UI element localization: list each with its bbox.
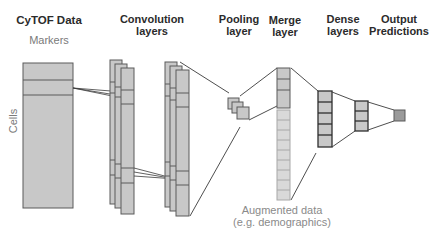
label-convolution-line1: Convolution — [112, 13, 192, 25]
label-dense-layers: Dense layers — [318, 13, 368, 37]
label-augmented-data: Augmented data (e.g. demographics) — [222, 204, 342, 228]
dense-layer-2 — [355, 101, 368, 131]
merge-layer — [277, 68, 290, 108]
label-output-line1: Output — [366, 13, 432, 25]
connector-dense1-dense2 — [332, 92, 355, 147]
augmented-data-column — [277, 110, 290, 200]
label-cells: Cells — [7, 104, 19, 138]
label-cytof-data: CyTOF Data — [14, 14, 84, 26]
label-augmented-line1: Augmented data — [222, 204, 342, 216]
cnn-architecture-diagram: CyTOF Data Markers Cells Convolution lay… — [0, 0, 432, 233]
connector-merge-dense — [291, 68, 318, 200]
conv-layer-1 — [110, 60, 134, 214]
label-merge-line2: layer — [262, 26, 308, 38]
connector-dense2-output — [368, 102, 394, 130]
label-pooling-line1: Pooling — [214, 13, 264, 25]
pooling-layer — [228, 98, 249, 119]
label-markers: Markers — [14, 34, 84, 46]
label-pooling-line2: layer — [214, 25, 264, 37]
label-convolution-layers: Convolution layers — [112, 13, 192, 37]
label-output-predictions: Output Predictions — [366, 13, 432, 37]
label-merge-layer: Merge layer — [262, 14, 308, 38]
conv-layer-2 — [165, 62, 189, 216]
dense-layer-1 — [318, 91, 332, 147]
label-merge-line1: Merge — [262, 14, 308, 26]
label-dense-line2: layers — [318, 25, 368, 37]
cytof-matrix — [23, 63, 73, 208]
label-augmented-line2: (e.g. demographics) — [222, 216, 342, 228]
label-dense-line1: Dense — [318, 13, 368, 25]
label-output-line2: Predictions — [366, 25, 432, 37]
output-node — [394, 110, 405, 121]
label-pooling-layer: Pooling layer — [214, 13, 264, 37]
label-convolution-line2: layers — [112, 25, 192, 37]
